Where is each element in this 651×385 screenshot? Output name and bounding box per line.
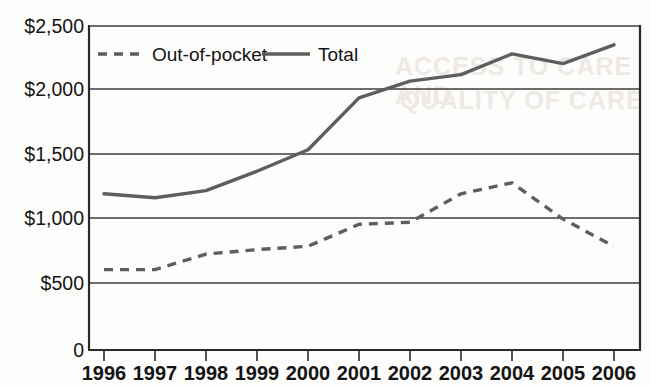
- x-label-2003: 2003: [439, 362, 484, 384]
- y-label-1500: $1,500: [24, 143, 84, 165]
- x-label-2002: 2002: [388, 362, 433, 384]
- x-tick-marks: [104, 350, 614, 361]
- x-label-1996: 1996: [82, 362, 127, 384]
- x-label-1998: 1998: [184, 362, 229, 384]
- data-series: [104, 45, 614, 270]
- x-label-2006: 2006: [592, 362, 637, 384]
- y-label-0: 0: [73, 339, 84, 361]
- x-label-1997: 1997: [133, 362, 178, 384]
- line-chart: $2,500 $2,000 $1,500 $1,000 $500 0 1996 …: [0, 0, 651, 385]
- x-label-1999: 1999: [235, 362, 280, 384]
- series-line-total: [104, 45, 614, 198]
- y-label-500: $500: [41, 272, 85, 294]
- x-label-2004: 2004: [490, 362, 535, 384]
- axes: [88, 25, 641, 350]
- x-tick-labels: 1996 1997 1998 1999 2000 2001 2002 2003 …: [82, 362, 637, 384]
- legend-label-out-of-pocket: Out-of-pocket: [152, 44, 268, 65]
- legend-label-total: Total: [318, 44, 358, 65]
- y-label-2500: $2,500: [24, 15, 84, 37]
- x-label-2001: 2001: [337, 362, 382, 384]
- chart-legend: Out-of-pocket Total: [98, 44, 358, 65]
- x-label-2005: 2005: [541, 362, 586, 384]
- chart-page: ACCESS TO CARE AND QUALITY OF CARE: [0, 0, 651, 385]
- y-tick-labels: $2,500 $2,000 $1,500 $1,000 $500 0: [24, 15, 84, 361]
- x-label-2000: 2000: [286, 362, 331, 384]
- y-label-2000: $2,000: [24, 78, 84, 100]
- y-label-1000: $1,000: [24, 207, 84, 229]
